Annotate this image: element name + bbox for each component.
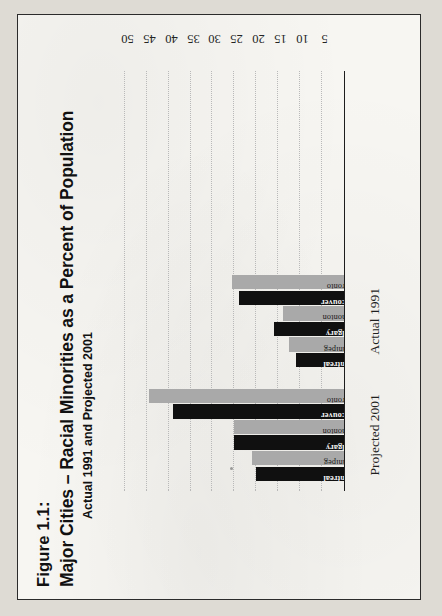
bar-label: Toronto (327, 282, 344, 289)
tick-label-50: 50 (110, 31, 144, 46)
bar-label: Calgary (325, 443, 344, 450)
bar-projected-2001-edmonton: Edmonton (234, 420, 344, 434)
scanned-page: Figure 1.1: Major Cities – Racial Minori… (17, 14, 421, 600)
bar-projected-2001-toronto: Toronto (149, 389, 344, 403)
bar-label: Montreal (323, 360, 344, 367)
bar-label: Winnipeg (323, 345, 344, 352)
bar-projected-2001-montreal: Montreal (256, 467, 344, 481)
bar-label: Edmonton (322, 313, 344, 320)
bar-label: Vancouver (321, 411, 344, 418)
bar-actual-1991-calgary: Calgary (274, 322, 344, 336)
bar-projected-2001-vancouver: Vancouver (173, 404, 344, 418)
rotated-figure-canvas: Figure 1.1: Major Cities – Racial Minori… (18, 15, 421, 600)
bar-projected-2001-winnipeg: Winnipeg (252, 451, 344, 465)
bar-label: Vancouver (321, 298, 344, 305)
bar-actual-1991-edmonton: Edmonton (283, 306, 344, 320)
bar-actual-1991-vancouver: Vancouver (239, 291, 344, 305)
bar-label: Toronto (327, 396, 344, 403)
group-caption-projected-2001: Projected 2001 (367, 394, 383, 475)
bar-chart-plot-area: 5101520253035404550 MontrealWinnipegCalg… (115, 71, 345, 491)
bar-actual-1991-toronto: Toronto (232, 275, 344, 289)
bar-actual-1991-montreal: Montreal (296, 353, 344, 367)
figure-subtitle: Actual 1991 and Projected 2001 (81, 332, 95, 519)
bar-label: Edmonton (322, 427, 344, 434)
gridline-30 (211, 71, 212, 491)
gridline-45 (146, 71, 147, 491)
bar-projected-2001-calgary: Calgary (234, 435, 344, 449)
figure-number: Figure 1.1: (34, 501, 53, 587)
bar-label: Calgary (325, 329, 344, 336)
bar-label: Winnipeg (323, 458, 344, 465)
gridline-35 (190, 71, 191, 491)
group-caption-actual-1991: Actual 1991 (367, 288, 383, 354)
gridline-40 (168, 71, 169, 491)
gridline-50 (124, 71, 125, 491)
bar-actual-1991-winnipeg: Winnipeg (289, 337, 344, 351)
figure-title: Major Cities – Racial Minorities as a Pe… (57, 111, 78, 587)
bar-label: Montreal (323, 474, 344, 481)
